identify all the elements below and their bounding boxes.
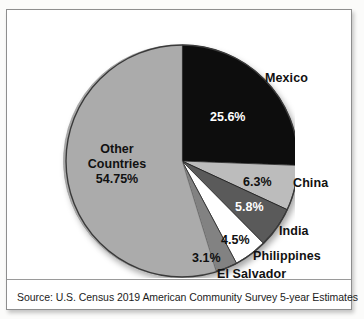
slice-label-other-countries: Other Countries 54.75%	[63, 142, 171, 187]
other-countries-percent: 54.75%	[63, 172, 171, 187]
chart-plot-area: Other Countries 54.75% 25.6% 6.3% 5.8% 4…	[7, 10, 351, 278]
slice-percent-el-salvador: 3.1%	[192, 251, 221, 265]
other-countries-line1: Other	[63, 142, 171, 157]
pie-slice-mexico	[182, 45, 295, 165]
source-divider	[7, 279, 351, 280]
slice-percent-india: 5.8%	[235, 200, 264, 214]
slice-label-china: China	[293, 176, 328, 190]
slice-label-philippines: Philippines	[253, 249, 321, 263]
source-note: Source: U.S. Census 2019 American Commun…	[17, 291, 358, 303]
slice-percent-china: 6.3%	[243, 175, 272, 189]
figure-frame: Other Countries 54.75% 25.6% 6.3% 5.8% 4…	[6, 9, 352, 310]
slice-label-india: India	[279, 224, 309, 238]
slice-percent-philippines: 4.5%	[221, 233, 250, 247]
slice-label-mexico: Mexico	[265, 71, 308, 85]
pie-chart-figure: Other Countries 54.75% 25.6% 6.3% 5.8% 4…	[0, 0, 364, 319]
slice-percent-mexico: 25.6%	[210, 110, 245, 124]
other-countries-line2: Countries	[63, 157, 171, 172]
